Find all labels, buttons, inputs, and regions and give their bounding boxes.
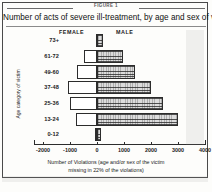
x-axis-tick-label: 3000: [163, 147, 193, 153]
x-axis-caption-line-2: missing in 22% of the violations): [11, 167, 201, 175]
y-axis-label: Age category of victim: [15, 59, 21, 129]
x-axis-tick: [151, 142, 152, 145]
x-axis-tick-label: 4000: [190, 147, 212, 153]
bar-female-13-24: [76, 113, 97, 126]
bar-female-25-36: [70, 97, 97, 110]
bar-male-73+: [97, 34, 103, 47]
x-axis-tick: [43, 142, 44, 145]
bar-female-37-48: [68, 81, 97, 94]
x-axis-line: [34, 144, 206, 145]
y-axis-tick-label: 37-48: [29, 84, 59, 90]
x-axis-tick-label: 2000: [136, 147, 166, 153]
x-axis-tick-label: -1000: [55, 147, 85, 153]
bar-male-37-48: [97, 81, 151, 94]
x-axis-tick: [178, 142, 179, 145]
plot-area: FEMALE MALE Age category of victim 73+61…: [3, 3, 209, 179]
x-axis-tick-label: -2000: [28, 147, 58, 153]
bar-male-61-72: [97, 50, 123, 63]
x-axis-tick: [70, 142, 71, 145]
x-axis-tick: [124, 142, 125, 145]
x-axis-tick: [97, 142, 98, 145]
legend-label-female: FEMALE: [59, 29, 84, 35]
y-axis-tick-label: 61-72: [29, 53, 59, 59]
bar-female-61-72: [84, 50, 97, 63]
bar-male-49-60: [97, 65, 135, 78]
bar-female-49-60: [77, 65, 97, 78]
figure-frame: FIGURE 1 Number of acts of severe ill-tr…: [2, 2, 208, 178]
y-axis-tick-label: 49-60: [29, 69, 59, 75]
y-axis-tick-label: 0-12: [29, 131, 59, 137]
x-axis-tick: [205, 142, 206, 145]
bar-male-13-24: [97, 113, 178, 126]
y-axis-tick-label: 73+: [29, 37, 59, 43]
y-axis-tick-label: 13-24: [29, 116, 59, 122]
bar-male-25-36: [97, 97, 163, 110]
figure-screenshot: FIGURE 1 Number of acts of severe ill-tr…: [0, 0, 212, 192]
x-axis-caption-line-1: Number of Violations (age and/or sex of …: [11, 159, 201, 167]
x-axis-cap-left: [34, 140, 35, 145]
bar-male-0-12: [97, 128, 101, 141]
x-axis-tick-label: 1000: [109, 147, 139, 153]
x-axis-caption: Number of Violations (age and/or sex of …: [11, 159, 201, 174]
legend-label-male: MALE: [116, 29, 133, 35]
x-axis-tick-label: 0: [82, 147, 112, 153]
y-axis-tick-label: 25-36: [29, 100, 59, 106]
